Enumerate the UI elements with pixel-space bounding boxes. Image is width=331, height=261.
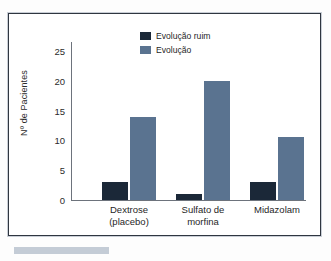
- bar-group: [176, 50, 230, 200]
- y-tick-label: 25: [43, 46, 65, 57]
- y-tick-label: 10: [43, 135, 65, 146]
- y-axis-title: Nº de Pacientes: [19, 57, 29, 149]
- legend-item: Evolução: [140, 44, 210, 56]
- bar: [278, 137, 304, 200]
- x-axis-category-label-line: morfina: [162, 216, 244, 228]
- bar-group: [102, 50, 156, 200]
- y-tick-label: 5: [43, 165, 65, 176]
- plot-area: Nº de Pacientes 0510152025 Dextrose(plac…: [9, 14, 322, 237]
- bar: [130, 117, 156, 200]
- legend-label-evolucao: Evolução: [156, 45, 191, 55]
- y-tick-label: 15: [43, 105, 65, 116]
- chart-legend: Evolução ruim Evolução: [140, 30, 210, 58]
- x-axis-category-label: Dextrose(placebo): [88, 204, 170, 227]
- legend-label-evolucao-ruim: Evolução ruim: [156, 31, 210, 41]
- bar-group: [250, 50, 304, 200]
- page-background: Nº de Pacientes 0510152025 Dextrose(plac…: [0, 0, 331, 261]
- bar: [204, 81, 230, 200]
- legend-swatch-evolucao-ruim: [140, 32, 151, 40]
- bar: [176, 194, 202, 200]
- x-axis-category-label: Midazolam: [236, 204, 318, 216]
- y-tick-label: 0: [43, 195, 65, 206]
- x-axis-category-label-line: (placebo): [88, 216, 170, 228]
- legend-item: Evolução ruim: [140, 30, 210, 42]
- chart-figure-frame: Nº de Pacientes 0510152025 Dextrose(plac…: [8, 13, 321, 236]
- bar: [250, 182, 276, 200]
- y-axis-line: [71, 42, 72, 201]
- x-axis-line: [71, 200, 306, 201]
- y-tick-label: 20: [43, 75, 65, 86]
- x-axis-category-label-line: Sulfato de: [162, 204, 244, 216]
- x-axis-category-label-line: Dextrose: [88, 204, 170, 216]
- x-axis-category-label: Sulfato demorfina: [162, 204, 244, 227]
- legend-swatch-evolucao: [140, 46, 151, 54]
- bar: [102, 182, 128, 200]
- scan-artifact-bar: [14, 247, 109, 254]
- x-axis-category-label-line: Midazolam: [236, 204, 318, 216]
